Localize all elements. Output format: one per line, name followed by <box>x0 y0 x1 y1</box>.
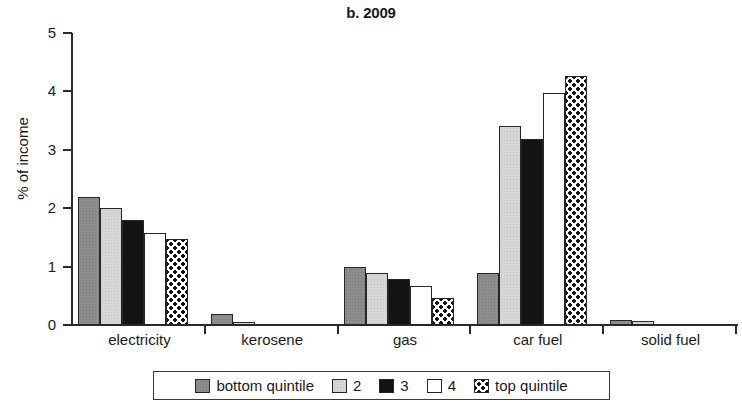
legend-label: 2 <box>353 378 361 393</box>
bar-group <box>78 33 188 325</box>
y-axis-tick <box>63 32 72 34</box>
x-axis-category-label: car fuel <box>471 331 604 348</box>
legend-item: 2 <box>332 378 361 393</box>
bar <box>233 322 255 325</box>
bar <box>477 273 499 325</box>
bar <box>78 197 100 325</box>
x-axis-category-label: electricity <box>73 331 206 348</box>
bar <box>543 93 565 325</box>
bar-group <box>344 33 454 325</box>
legend-item: 4 <box>427 378 456 393</box>
x-axis-category-label: gas <box>339 331 472 348</box>
y-axis-tick-label: 5 <box>16 25 56 40</box>
legend-swatch-icon <box>195 379 210 393</box>
bar <box>610 320 632 325</box>
y-axis-tick-label: 2 <box>16 200 56 215</box>
y-axis-line <box>71 33 73 326</box>
legend-label: bottom quintile <box>216 378 314 393</box>
bar <box>410 286 432 325</box>
bar-group <box>211 33 321 325</box>
bar <box>100 208 122 325</box>
bar <box>565 76 587 325</box>
legend-swatch-icon <box>379 379 394 393</box>
legend-swatch-icon <box>474 379 489 393</box>
y-axis-tick-label: 4 <box>16 83 56 98</box>
legend-label: 3 <box>400 378 408 393</box>
bar <box>521 139 543 325</box>
y-axis-tick-label: 0 <box>16 317 56 332</box>
bar <box>144 233 166 325</box>
bar <box>122 220 144 325</box>
bar-group <box>610 33 720 325</box>
plot-area: % of income 012345 electricitykerosenega… <box>0 0 742 410</box>
bar <box>432 298 454 325</box>
bar-group <box>477 33 587 325</box>
legend-swatch-icon <box>427 379 442 393</box>
bar <box>499 126 521 325</box>
legend-item: top quintile <box>474 378 568 393</box>
bar <box>366 273 388 325</box>
bar <box>211 314 233 325</box>
y-axis-tick <box>63 90 72 92</box>
legend-label: 4 <box>448 378 456 393</box>
bar <box>166 239 188 325</box>
y-axis-tick-label: 3 <box>16 142 56 157</box>
y-axis-tick <box>63 266 72 268</box>
bar <box>632 321 654 325</box>
legend-item: 3 <box>379 378 408 393</box>
y-axis-tick <box>63 149 72 151</box>
x-axis-category-label: kerosene <box>206 331 339 348</box>
y-axis-tick-label: 1 <box>16 259 56 274</box>
bar <box>344 267 366 325</box>
chart-legend: bottom quintile234top quintile <box>153 371 610 400</box>
legend-swatch-icon <box>332 379 347 393</box>
legend-label: top quintile <box>495 378 568 393</box>
bar <box>388 279 410 325</box>
x-axis-category-label: solid fuel <box>604 331 737 348</box>
legend-item: bottom quintile <box>195 378 314 393</box>
y-axis-tick <box>63 207 72 209</box>
y-axis-tick <box>63 324 72 326</box>
